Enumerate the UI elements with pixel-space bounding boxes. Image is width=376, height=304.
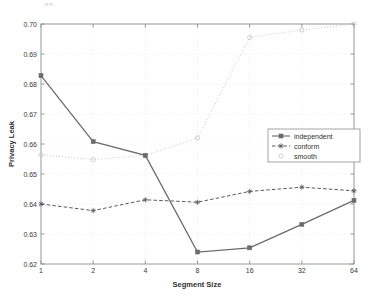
y-tick-label: 0.64 [23,201,37,208]
y-tick-label: 0.62 [23,261,37,268]
legend-label-independent: independent [294,133,333,141]
chart-legend[interactable]: independentconformsmooth [268,129,360,162]
y-tick-label: 0.67 [23,111,37,118]
data-point-marker [91,158,95,162]
y-tick-label: 0.68 [23,81,37,88]
y-tick-label: 0.63 [23,231,37,238]
series-line-independent [41,76,354,252]
y-axis-title: Privacy Leak [7,120,16,167]
x-tick-label: 4 [143,267,147,274]
y-tick-label: 0.66 [23,141,37,148]
data-point-marker [196,250,200,254]
legend-label-smooth: smooth [294,153,317,160]
series-conform [38,185,356,214]
privacy-leak-line-chart: 0.620.630.640.650.660.670.680.690.701248… [0,0,376,304]
y-tick-label: 0.65 [23,171,37,178]
data-point-marker [143,153,147,157]
y-tick-label: 0.70 [23,21,37,28]
x-axis-title: Segment Size [173,280,222,289]
data-point-marker [352,198,356,202]
data-point-marker [91,140,95,144]
data-point-marker [248,246,252,250]
data-point-marker [279,134,283,138]
x-tick-label: 32 [298,267,306,274]
x-tick-label: 2 [91,267,95,274]
data-point-marker [39,74,43,78]
series-independent [39,74,356,254]
x-tick-label: 64 [350,267,358,274]
x-tick-label: 16 [246,267,254,274]
scan-artifact-text: nn [45,1,67,8]
x-tick-label: 8 [196,267,200,274]
data-point-marker [300,222,304,226]
figure-canvas: nn 0.620.630.640.650.660.670.680.690.701… [0,0,376,304]
y-tick-label: 0.69 [23,51,37,58]
x-tick-label: 1 [39,267,43,274]
legend-label-conform: conform [294,143,319,150]
